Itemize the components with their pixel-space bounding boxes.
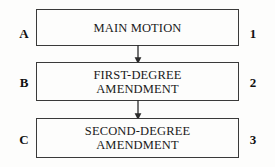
row-number-2: 2 [246,76,260,89]
diagram-canvas: A MAIN MOTION 1 B FIRST-DEGREE AMENDMENT… [0,0,275,167]
row-letter-b: B [17,76,31,89]
row-number-3: 3 [246,133,260,146]
node-second-degree-amendment-label: SECOND-DEGREE AMENDMENT [85,124,190,152]
row-number-1: 1 [246,27,260,40]
node-main-motion-label: MAIN MOTION [93,21,181,35]
node-first-degree-amendment[interactable]: FIRST-DEGREE AMENDMENT [36,62,239,101]
row-letter-a: A [17,27,31,40]
node-main-motion[interactable]: MAIN MOTION [36,9,239,46]
node-first-degree-amendment-label: FIRST-DEGREE AMENDMENT [93,68,181,96]
arrow-first-degree-to-second-degree [129,100,147,120]
row-letter-c: C [17,133,31,146]
node-second-degree-amendment[interactable]: SECOND-DEGREE AMENDMENT [36,118,239,158]
